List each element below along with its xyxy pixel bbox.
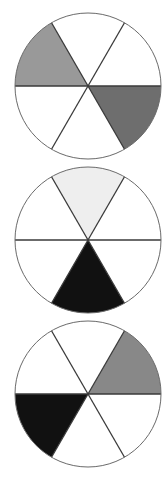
wheel-3 [0, 308, 167, 468]
wheel-2 [0, 154, 167, 314]
wheel-1 [0, 0, 167, 160]
sector-wheel-diagram [0, 0, 167, 481]
